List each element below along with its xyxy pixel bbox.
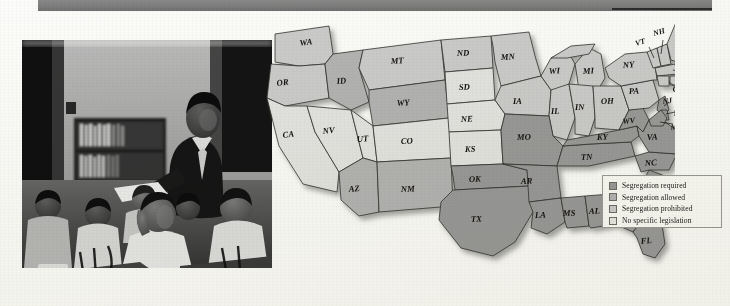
svg-text:ID: ID <box>335 75 347 86</box>
svg-text:MT: MT <box>389 55 404 66</box>
svg-text:NJ: NJ <box>661 96 674 107</box>
svg-text:PA: PA <box>628 85 639 96</box>
svg-text:FL: FL <box>639 235 652 246</box>
svg-text:TX: TX <box>471 214 483 224</box>
svg-text:AZ: AZ <box>347 183 361 194</box>
svg-text:NM: NM <box>400 183 416 194</box>
svg-text:MI: MI <box>582 65 595 76</box>
svg-text:VT: VT <box>634 36 647 48</box>
svg-text:CA: CA <box>282 128 295 140</box>
svg-text:WA: WA <box>299 36 313 48</box>
svg-text:NC: NC <box>643 157 657 168</box>
state-TX <box>439 186 533 256</box>
svg-text:IA: IA <box>512 96 523 106</box>
svg-text:NE: NE <box>460 113 474 124</box>
svg-text:LA: LA <box>534 210 547 220</box>
legend-label-none: No specific legislation <box>622 216 691 225</box>
state-CT <box>657 76 669 86</box>
svg-text:AL: AL <box>588 206 600 216</box>
svg-text:AR: AR <box>520 176 533 186</box>
svg-text:OH: OH <box>601 96 615 106</box>
svg-text:MS: MS <box>562 208 576 218</box>
legend-label-prohibited: Segregation prohibited <box>622 204 692 213</box>
svg-text:NV: NV <box>321 125 336 136</box>
svg-text:KY: KY <box>596 132 609 142</box>
svg-text:KS: KS <box>464 144 476 154</box>
svg-text:UT: UT <box>356 133 369 144</box>
classroom-photograph <box>22 40 272 268</box>
svg-text:OR: OR <box>276 76 289 88</box>
legend-swatch-required <box>609 182 617 190</box>
legend-swatch-allowed <box>609 193 617 201</box>
svg-text:TN: TN <box>581 152 594 162</box>
state-NE <box>447 100 505 132</box>
legend-item-none: No specific legislation <box>609 215 717 227</box>
svg-text:CT: CT <box>672 84 675 94</box>
svg-text:WV: WV <box>622 116 636 126</box>
photograph-image <box>22 40 272 268</box>
svg-text:NY: NY <box>621 59 635 70</box>
svg-text:CO: CO <box>401 135 413 146</box>
map-legend: Segregation required Segregation allowed… <box>602 175 722 228</box>
svg-text:OK: OK <box>469 174 483 184</box>
svg-text:VA: VA <box>646 131 658 142</box>
legend-swatch-none <box>609 217 617 225</box>
svg-text:SD: SD <box>459 81 471 92</box>
legend-item-allowed: Segregation allowed <box>609 192 717 204</box>
svg-text:IL: IL <box>550 106 560 116</box>
svg-text:WY: WY <box>396 97 410 108</box>
us-segregation-map: WA OR ID MT WY CA NV UT CO AZ NM ND SD N… <box>245 6 675 268</box>
svg-text:MO: MO <box>516 132 531 143</box>
svg-text:ND: ND <box>456 47 470 58</box>
legend-label-required: Segregation required <box>622 181 686 190</box>
svg-text:MN: MN <box>500 51 516 62</box>
legend-item-required: Segregation required <box>609 180 717 192</box>
legend-item-prohibited: Segregation prohibited <box>609 203 717 215</box>
page-canvas: WA OR ID MT WY CA NV UT CO AZ NM ND SD N… <box>0 0 730 306</box>
state-SD <box>445 68 495 104</box>
legend-swatch-prohibited <box>609 205 617 213</box>
svg-text:NH: NH <box>651 26 667 38</box>
svg-text:IN: IN <box>574 102 586 112</box>
svg-text:WI: WI <box>549 65 561 76</box>
legend-label-allowed: Segregation allowed <box>622 193 685 202</box>
state-KS <box>449 130 503 166</box>
